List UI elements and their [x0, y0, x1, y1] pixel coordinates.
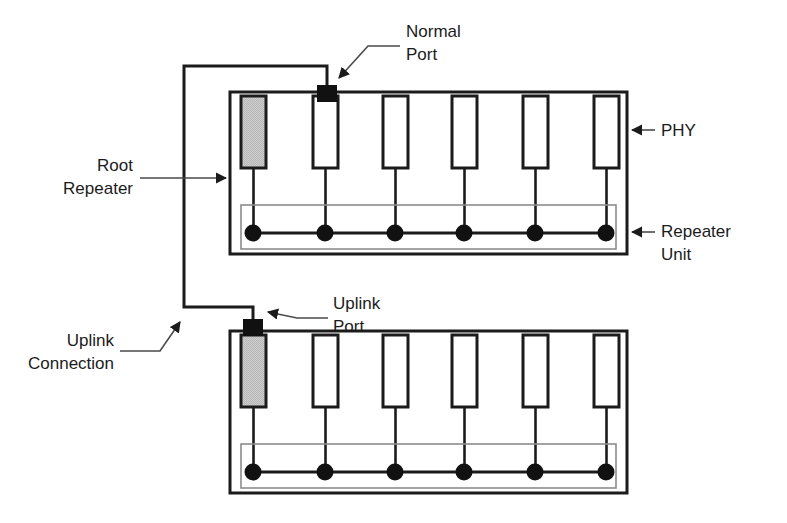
normal-port-marker[interactable]	[317, 85, 337, 102]
uplink-port-marker[interactable]	[243, 319, 263, 336]
callout-uplink-port-leader	[268, 312, 328, 318]
downstream-repeater[interactable]	[230, 331, 627, 493]
root-repeater[interactable]	[230, 92, 627, 254]
label-normal-port: Normal Port	[406, 20, 461, 66]
callout-normal-port-leader	[339, 46, 400, 78]
downstream-phy-5[interactable]	[594, 335, 619, 407]
callout-uplink-connection-leader	[120, 322, 180, 351]
root-repeater-chassis	[230, 92, 627, 254]
downstream-phy-1[interactable]	[313, 335, 338, 407]
label-root-repeater: Root Repeater	[0, 154, 133, 200]
diagram-canvas: Normal Port Uplink Port PHY Repeater Uni…	[0, 0, 787, 523]
downstream-phy-0-uplink[interactable]	[241, 335, 266, 407]
downstream-repeater-chassis	[230, 331, 627, 493]
downstream-phy-3[interactable]	[452, 335, 477, 407]
root-phy-1[interactable]	[313, 96, 338, 168]
root-phy-drop-leads	[254, 168, 607, 233]
downstream-phy-4[interactable]	[523, 335, 548, 407]
root-phy-5[interactable]	[594, 96, 619, 168]
downstream-phy-drop-leads	[254, 407, 607, 472]
root-phy-4[interactable]	[523, 96, 548, 168]
root-phy-3[interactable]	[452, 96, 477, 168]
label-repeater-unit: Repeater Unit	[661, 220, 731, 266]
root-repeater-unit-box	[241, 205, 616, 249]
label-uplink-connection: Uplink Connection	[0, 329, 114, 375]
label-uplink-port: Uplink Port	[333, 292, 380, 338]
downstream-phy-2[interactable]	[383, 335, 408, 407]
root-phy-0-uplink-capable[interactable]	[241, 96, 266, 168]
downstream-repeater-unit-box	[241, 444, 616, 488]
root-phy-2[interactable]	[383, 96, 408, 168]
label-phy: PHY	[661, 119, 696, 142]
